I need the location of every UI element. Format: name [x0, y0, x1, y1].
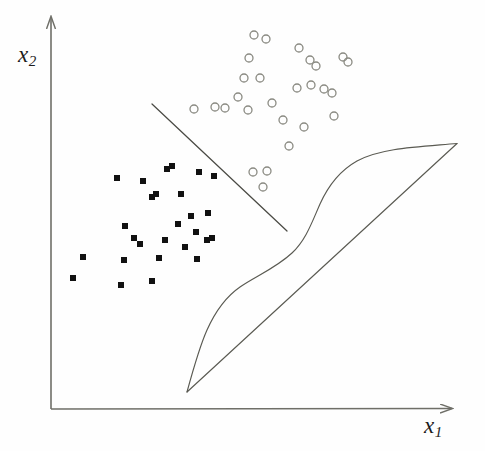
- y-axis-label: x2: [18, 42, 36, 70]
- class-circle-points: [190, 31, 352, 191]
- x-axis-label-base: x: [424, 413, 434, 438]
- data-point-circle: [307, 81, 315, 89]
- data-point-circle: [256, 74, 264, 82]
- scatter-plot-figure: x2 x1: [0, 0, 485, 451]
- data-point-square: [122, 223, 128, 229]
- x-axis-label: x1: [424, 413, 442, 441]
- y-axis-label-base: x: [18, 42, 28, 67]
- data-point-circle: [221, 104, 229, 112]
- data-point-square: [169, 163, 175, 169]
- data-point-circle: [279, 116, 287, 124]
- data-point-square: [121, 257, 127, 263]
- data-point-circle: [190, 105, 198, 113]
- x-axis-label-subscript: 1: [435, 424, 443, 440]
- plot-canvas: [0, 0, 485, 451]
- data-point-circle: [263, 167, 271, 175]
- data-point-circle: [244, 106, 252, 114]
- class-square-points: [70, 163, 217, 288]
- data-point-circle: [250, 31, 258, 39]
- data-point-circle: [293, 84, 301, 92]
- data-point-square: [178, 191, 184, 197]
- data-point-square: [137, 241, 143, 247]
- data-point-square: [153, 191, 159, 197]
- data-point-square: [114, 175, 120, 181]
- data-point-circle: [234, 93, 242, 101]
- data-point-square: [162, 237, 168, 243]
- data-point-square: [118, 282, 124, 288]
- data-point-square: [211, 173, 217, 179]
- axes-group: [51, 17, 452, 409]
- data-point-square: [80, 254, 86, 260]
- data-point-circle: [262, 35, 270, 43]
- data-point-square: [140, 178, 146, 184]
- data-point-circle: [320, 85, 328, 93]
- data-point-circle: [312, 62, 320, 70]
- data-point-square: [175, 221, 181, 227]
- data-point-square: [196, 169, 202, 175]
- data-point-square: [149, 278, 155, 284]
- data-point-circle: [295, 44, 303, 52]
- data-point-circle: [249, 168, 257, 176]
- data-point-square: [182, 244, 188, 250]
- data-point-square: [156, 255, 162, 261]
- data-point-circle: [259, 183, 267, 191]
- data-point-circle: [285, 142, 293, 150]
- data-point-square: [194, 256, 200, 262]
- y-axis-label-subscript: 2: [29, 53, 37, 69]
- data-point-circle: [330, 112, 338, 120]
- data-point-square: [209, 235, 215, 241]
- data-point-square: [193, 229, 199, 235]
- data-point-circle: [300, 123, 308, 131]
- data-point-circle: [245, 54, 253, 62]
- data-point-circle: [344, 58, 352, 66]
- data-point-square: [70, 275, 76, 281]
- data-point-square: [205, 210, 211, 216]
- diagonal-reference-line: [187, 144, 457, 393]
- data-point-circle: [211, 103, 219, 111]
- data-point-square: [188, 213, 194, 219]
- data-point-square: [131, 235, 137, 241]
- x-axis-line: [51, 409, 452, 410]
- data-point-circle: [240, 74, 248, 82]
- data-point-circle: [328, 89, 336, 97]
- data-point-circle: [268, 99, 276, 107]
- data-point-circle: [339, 53, 347, 61]
